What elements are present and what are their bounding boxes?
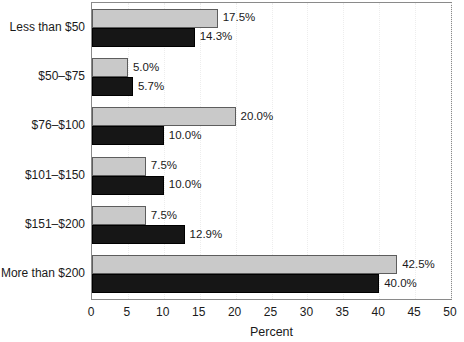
bar-series-light-4 <box>92 206 146 225</box>
value-label: 40.0% <box>384 278 417 290</box>
x-tick-label: 40 <box>372 306 385 318</box>
x-tick-label: 30 <box>300 306 313 318</box>
bar-chart: Less than $50$50–$75$76–$100$101–$150$15… <box>0 0 464 342</box>
bar-series-light-0 <box>92 9 218 28</box>
x-tick-label: 45 <box>407 306 420 318</box>
value-label: 42.5% <box>402 259 435 271</box>
category-label: $50–$75 <box>0 70 85 82</box>
bar-series-light-5 <box>92 255 397 274</box>
bar-series-dark-5 <box>92 274 379 293</box>
x-axis: Percent 05101520253035404550 <box>91 300 452 342</box>
x-tick-label: 35 <box>336 306 349 318</box>
bar-series-dark-1 <box>92 77 133 96</box>
bar-series-dark-2 <box>92 126 164 145</box>
category-label: $101–$150 <box>0 169 85 181</box>
value-label: 17.5% <box>223 12 256 24</box>
gridline <box>451 3 453 299</box>
x-tick-label: 15 <box>192 306 205 318</box>
x-tick-label: 50 <box>443 306 456 318</box>
bar-series-light-2 <box>92 107 236 126</box>
bar-series-light-1 <box>92 58 128 77</box>
x-tick-label: 0 <box>88 306 95 318</box>
value-label: 10.0% <box>169 179 202 191</box>
value-label: 12.9% <box>190 229 223 241</box>
bar-series-dark-3 <box>92 176 164 195</box>
plot-area: 17.5%14.3%5.0%5.7%20.0%10.0%7.5%10.0%7.5… <box>91 2 452 300</box>
value-label: 5.7% <box>138 81 164 93</box>
bar-series-dark-0 <box>92 28 195 47</box>
x-axis-title: Percent <box>91 326 452 339</box>
value-label: 7.5% <box>151 160 177 172</box>
category-label: More than $200 <box>0 267 85 279</box>
value-label: 5.0% <box>133 62 159 74</box>
category-label: $151–$200 <box>0 218 85 230</box>
value-label: 14.3% <box>200 31 233 43</box>
value-label: 10.0% <box>169 130 202 142</box>
category-label: Less than $50 <box>0 21 85 33</box>
x-tick-label: 5 <box>124 306 131 318</box>
x-tick-label: 20 <box>228 306 241 318</box>
value-label: 20.0% <box>241 111 274 123</box>
bar-series-dark-4 <box>92 225 185 244</box>
category-label: $76–$100 <box>0 119 85 131</box>
bar-series-light-3 <box>92 157 146 176</box>
x-tick-label: 10 <box>156 306 169 318</box>
value-label: 7.5% <box>151 210 177 222</box>
bars-layer: 17.5%14.3%5.0%5.7%20.0%10.0%7.5%10.0%7.5… <box>92 3 451 299</box>
x-tick-label: 25 <box>264 306 277 318</box>
